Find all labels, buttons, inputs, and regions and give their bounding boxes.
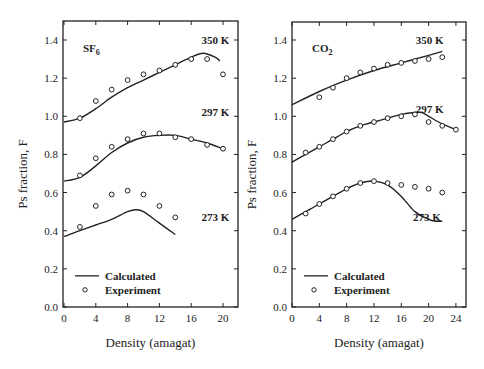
experiment-point <box>125 188 130 193</box>
experiment-point <box>78 173 83 178</box>
experiment-point <box>331 137 336 142</box>
experiment-point <box>303 211 308 216</box>
x-tick-label: 8 <box>125 312 131 324</box>
calculated-curve-297k <box>64 135 223 181</box>
x-tick-label: 24 <box>450 312 462 324</box>
experiment-point <box>426 57 431 62</box>
experiment-point <box>413 184 418 189</box>
experiment-point <box>189 57 194 62</box>
experiment-point <box>141 131 146 136</box>
y-tick-label: 0.0 <box>44 301 58 313</box>
y-tick-label: 1.4 <box>273 34 287 46</box>
experiment-point <box>221 146 226 151</box>
legend-circle-swatch <box>83 288 87 292</box>
x-tick-label: 4 <box>93 312 99 324</box>
experiment-point <box>93 204 98 209</box>
experiment-point <box>385 181 390 186</box>
experiment-point <box>372 66 377 71</box>
y-tick-label: 0.4 <box>273 225 287 237</box>
experiment-point <box>372 120 377 125</box>
y-tick-label: 0.4 <box>44 225 58 237</box>
chart-canvas: 0481216200.00.20.40.60.81.01.21.4Density… <box>0 0 484 369</box>
temperature-label: 297 K <box>416 103 444 115</box>
experiment-point <box>303 150 308 155</box>
experiment-point <box>344 129 349 134</box>
panel-label: CO2 <box>312 42 333 57</box>
experiment-point <box>358 181 363 186</box>
experiment-point <box>426 120 431 125</box>
y-tick-label: 0.6 <box>44 187 58 199</box>
y-tick-label: 0.6 <box>273 187 287 199</box>
experiment-point <box>317 144 322 149</box>
experiment-point <box>440 123 445 128</box>
calculated-curve-350k <box>64 53 220 122</box>
y-tick-label: 0.0 <box>273 301 287 313</box>
y-tick-label: 1.2 <box>273 72 287 84</box>
experiment-point <box>399 60 404 65</box>
experiment-point <box>189 137 194 142</box>
x-axis-label: Density (amagat) <box>106 335 196 350</box>
y-tick-label: 1.4 <box>44 34 58 46</box>
experiment-point <box>93 99 98 104</box>
experiment-point <box>93 156 98 161</box>
experiment-point <box>205 142 210 147</box>
experiment-point <box>78 116 83 121</box>
panel-co2: 048121620240.00.20.40.60.81.01.21.4Densi… <box>244 22 466 350</box>
experiment-point <box>221 72 226 77</box>
experiment-point <box>125 78 130 83</box>
experiment-point <box>331 194 336 199</box>
experiment-point <box>109 192 114 197</box>
plot-frame <box>63 21 238 307</box>
y-tick-label: 1.0 <box>273 110 287 122</box>
x-axis-label: Density (amagat) <box>334 335 424 350</box>
x-tick-label: 20 <box>218 312 230 324</box>
legend-label-experiment: Experiment <box>105 284 161 296</box>
experiment-point <box>399 183 404 188</box>
x-tick-label: 4 <box>317 312 323 324</box>
experiment-point <box>109 144 114 149</box>
experiment-point <box>141 192 146 197</box>
experiment-point <box>109 87 114 92</box>
y-tick-label: 0.2 <box>273 263 287 275</box>
x-tick-label: 12 <box>154 312 165 324</box>
experiment-point <box>331 85 336 90</box>
x-tick-label: 16 <box>186 312 198 324</box>
x-tick-label: 8 <box>344 312 350 324</box>
experiment-point <box>173 62 178 67</box>
experiment-point <box>372 179 377 184</box>
panel-sf6: 0481216200.00.20.40.60.81.01.21.4Density… <box>15 21 238 350</box>
experiment-point <box>157 131 162 136</box>
legend-circle-swatch <box>312 288 316 292</box>
temperature-label: 350 K <box>202 34 230 46</box>
legend-label-calculated: Calculated <box>334 270 385 282</box>
experiment-point <box>358 123 363 128</box>
y-axis-label: Ps fraction, F <box>15 139 30 209</box>
calculated-curve-350k <box>292 51 442 104</box>
experiment-point <box>385 116 390 121</box>
x-tick-label: 16 <box>396 312 408 324</box>
x-tick-label: 20 <box>423 312 435 324</box>
experiment-point <box>205 57 210 62</box>
y-tick-label: 1.2 <box>44 72 58 84</box>
y-axis-label: Ps fraction, F <box>244 140 259 210</box>
experiment-point <box>317 95 322 100</box>
y-tick-label: 0.8 <box>273 148 287 160</box>
x-tick-label: 12 <box>368 312 379 324</box>
experiment-point <box>173 215 178 220</box>
x-tick-label: 0 <box>61 312 67 324</box>
temperature-label: 273 K <box>202 211 230 223</box>
x-tick-label: 0 <box>289 312 295 324</box>
experiment-point <box>454 127 459 132</box>
experiment-point <box>413 59 418 64</box>
experiment-point <box>385 62 390 67</box>
experiment-point <box>317 202 322 207</box>
experiment-point <box>78 225 83 230</box>
temperature-label: 297 K <box>202 106 230 118</box>
experiment-point <box>440 55 445 60</box>
y-tick-label: 1.0 <box>44 110 58 122</box>
experiment-point <box>157 68 162 73</box>
y-tick-label: 0.8 <box>44 148 58 160</box>
experiment-point <box>125 137 130 142</box>
experiment-point <box>440 190 445 195</box>
calculated-curve-273k <box>64 210 175 237</box>
